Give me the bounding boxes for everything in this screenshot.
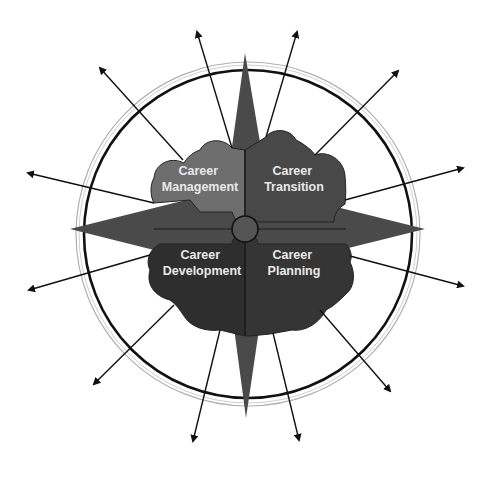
outward-arrow-icon: [197, 32, 232, 148]
label-line2: Planning: [268, 264, 321, 278]
label-line1: Career: [180, 248, 220, 262]
label-line2: Management: [162, 180, 239, 194]
outward-arrow-icon: [29, 255, 150, 290]
outward-arrow-icon: [266, 32, 297, 137]
label-line1: Career: [178, 164, 218, 178]
outward-arrow-icon: [193, 330, 220, 441]
outward-arrow-icon: [273, 333, 299, 440]
career-compass-diagram: Career Management Career Transition Care…: [0, 0, 492, 479]
outward-arrow-icon: [350, 256, 463, 286]
label-line1: Career: [272, 164, 312, 178]
center-hub: [232, 216, 258, 242]
outward-arrow-icon: [100, 68, 183, 160]
label-line1: Career: [272, 248, 312, 262]
outward-arrow-icon: [28, 173, 154, 203]
label-line2: Development: [163, 264, 242, 278]
outward-arrow-icon: [345, 168, 463, 200]
outward-arrow-icon: [320, 310, 390, 391]
label-line2: Transition: [264, 180, 324, 194]
